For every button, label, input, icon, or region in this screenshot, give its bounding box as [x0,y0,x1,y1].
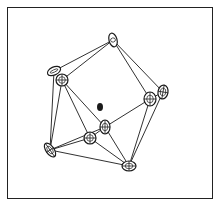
bond-line [54,40,113,71]
bond-line [105,127,129,166]
atom-ellipsoid [97,103,103,111]
atom-ellipsoid [144,92,156,106]
bond-line [62,40,113,80]
atom-ellipsoid [157,84,169,100]
atom-ellipsoid [56,74,68,86]
bond-line [105,99,150,127]
cluster-diagram [0,0,224,206]
bond-line [113,40,163,92]
bond-line [113,40,150,99]
atom-ellipsoid [84,132,96,144]
atom-ellipsoid [122,161,136,171]
atom-ellipsoid [42,141,58,159]
atom-ellipsoid [107,32,118,48]
bond-line [129,99,150,166]
atom-ellipsoid [100,120,110,134]
bond-line [50,127,105,150]
bond-line [62,80,90,138]
